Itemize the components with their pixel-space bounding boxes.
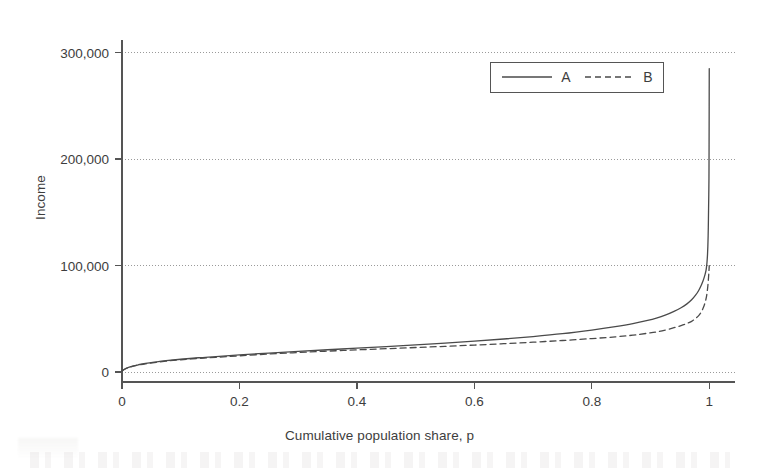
x-tick-label: 0.6	[465, 394, 484, 409]
legend-label-B: B	[643, 69, 652, 85]
x-tick-label: 0.2	[230, 394, 249, 409]
page-bleed-artifact	[30, 452, 730, 468]
y-tick-label: 300,000	[0, 45, 109, 60]
legend[interactable]: AB	[490, 62, 663, 92]
x-tick-label: 0.4	[348, 394, 367, 409]
x-tick-label: 1	[705, 394, 713, 409]
income-distribution-chart: AB	[0, 0, 759, 476]
chart-figure: AB Income Cumulative population share, p…	[0, 0, 759, 476]
x-axis-label: Cumulative population share, p	[0, 428, 759, 443]
series-line-B	[122, 266, 709, 371]
y-tick-label: 0	[0, 365, 109, 380]
y-tick-label: 200,000	[0, 152, 109, 167]
y-tick-label: 100,000	[0, 258, 109, 273]
tick-marks	[115, 53, 709, 389]
x-tick-label: 0	[118, 394, 126, 409]
page-bleed-artifact-left	[18, 438, 78, 460]
series-line-A	[122, 69, 709, 371]
x-tick-label: 0.8	[582, 394, 601, 409]
legend-label-A: A	[561, 69, 571, 85]
grid-lines	[122, 53, 735, 372]
series-lines	[122, 69, 709, 371]
